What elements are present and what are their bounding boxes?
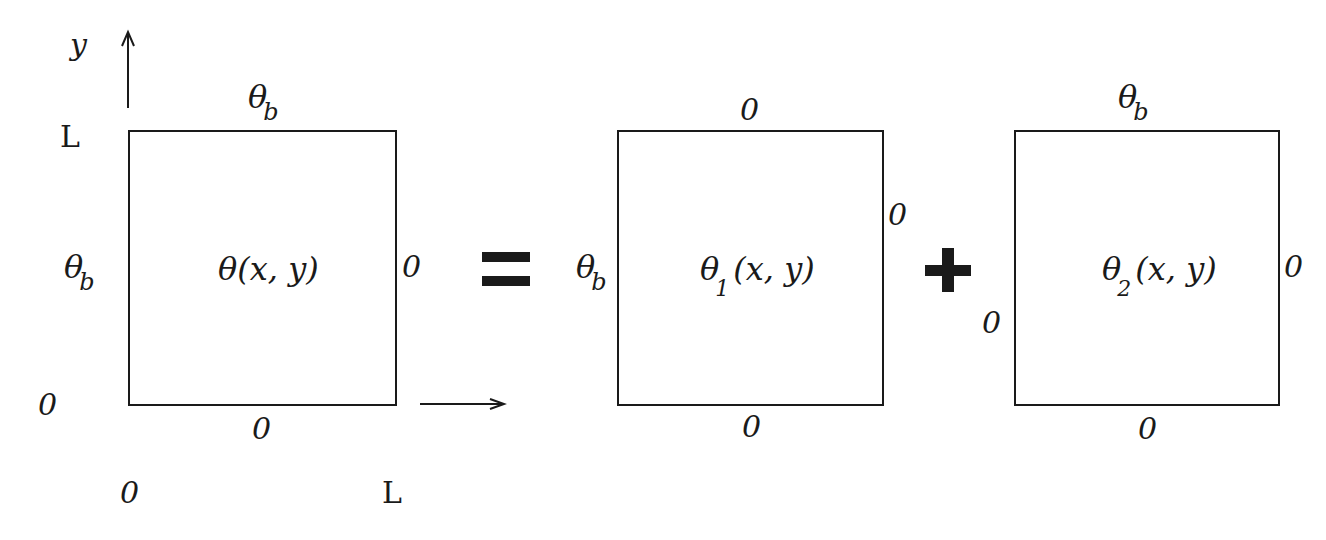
panel-1-top-bc: θb <box>248 78 283 116</box>
panel-2-left-bc: θb <box>576 248 611 286</box>
panel-1-right-bc: 0 <box>402 252 421 282</box>
y-axis-label: y <box>70 30 87 60</box>
panel-3-function: θ2(x, y) <box>1102 250 1217 288</box>
x-axis-tick-L: L <box>382 478 402 508</box>
x-axis-tick-0: 0 <box>120 478 139 508</box>
panel-2-bottom-bc: 0 <box>742 412 761 442</box>
plus-sign <box>925 248 971 292</box>
equals-sign <box>482 252 530 288</box>
y-axis-tick-L: L <box>60 122 80 152</box>
panel-3-top-bc: θb <box>1118 78 1153 116</box>
origin-y-tick: 0 <box>38 390 57 420</box>
panel-1-function: θ(x, y) <box>218 250 319 288</box>
panel-2-function: θ1(x, y) <box>700 250 815 288</box>
panel-3-right-bc: 0 <box>1284 252 1303 282</box>
panel-2-top-bc: 0 <box>740 95 759 125</box>
panel-3-bottom-bc: 0 <box>1138 414 1157 444</box>
x-axis-arrow-icon <box>418 396 508 412</box>
panel-2-right-bc: 0 <box>888 200 907 230</box>
panel-1-left-bc: θb <box>64 248 99 286</box>
panel-1-bottom-bc: 0 <box>252 414 271 444</box>
y-axis-arrow-icon <box>118 28 138 110</box>
panel-3-left-bc: 0 <box>982 308 1001 338</box>
